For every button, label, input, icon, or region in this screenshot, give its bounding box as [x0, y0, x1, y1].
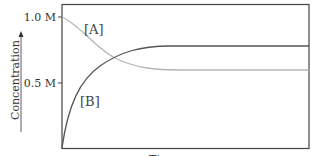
tick-label-1.0: 1.0 M [24, 11, 56, 24]
x-axis-title: Time [149, 153, 177, 156]
concentration-chart: 1.0 M 0.5 M Concentration [A] [B] Time [0, 0, 311, 156]
series-a-label: [A] [84, 22, 104, 37]
series-b-label: [B] [80, 94, 100, 109]
tick-label-0.5: 0.5 M [24, 77, 56, 90]
arrow-up-icon [19, 31, 24, 37]
y-axis-title: Concentration [9, 40, 22, 120]
